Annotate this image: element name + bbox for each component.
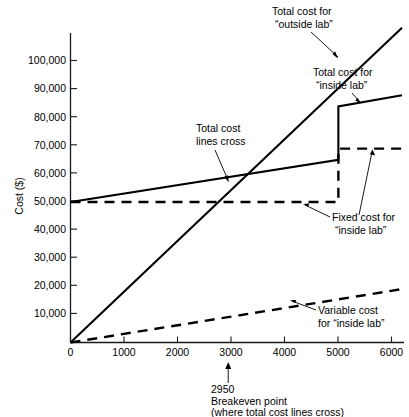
- y-tick-label-30000: 30,000: [34, 251, 66, 263]
- annotation-variable-cost: Variable cost for “inside lab”: [290, 300, 385, 329]
- y-tick-label-70000: 70,000: [34, 139, 66, 151]
- y-axis-title: Cost ($): [13, 177, 25, 214]
- breakeven-caption: 2950 Breakeven point (where total cost l…: [211, 383, 344, 417]
- x-tick-label-5000: 5000: [326, 346, 350, 358]
- y-axis: [71, 33, 78, 342]
- breakeven-value: 2950: [211, 383, 235, 395]
- y-tick-label-80000: 80,000: [34, 111, 66, 123]
- y-tick-label-90000: 90,000: [34, 82, 66, 94]
- x-tick-label-2000: 2000: [166, 346, 190, 358]
- y-tick-label-100000: 100,000: [28, 54, 66, 66]
- annotation-inside-lab-line2: “inside lab”: [316, 79, 368, 91]
- annotation-lines-cross-line2: lines cross: [196, 135, 246, 147]
- annotation-variable-cost-arrow-icon: [290, 300, 296, 303]
- annotation-outside-lab-line1: Total cost for: [272, 5, 332, 17]
- annotation-fixed-cost-line2: “inside lab”: [335, 224, 387, 236]
- x-tick-label-0: 0: [68, 346, 74, 358]
- annotation-outside-lab-line2: “outside lab”: [275, 18, 333, 30]
- annotation-inside-lab-line1: Total cost for: [313, 66, 373, 78]
- y-tick-label-40000: 40,000: [34, 223, 66, 235]
- annotation-fixed-cost-line1: Fixed cost for: [332, 211, 396, 223]
- annotation-fixed-cost-arrow-icon-up: [370, 150, 375, 156]
- y-tick-label-20000: 20,000: [34, 279, 66, 291]
- x-tick-label-6000: 6000: [380, 346, 404, 358]
- x-tick-labels: 0 1000 2000 3000 4000 5000 6000: [68, 346, 404, 358]
- annotation-lines-cross: Total cost lines cross: [196, 122, 246, 183]
- annotation-fixed-cost-arrow-icon-left: [303, 203, 309, 206]
- y-tick-labels: 100,000 90,000 80,000 70,000 60,000 50,0…: [28, 54, 66, 319]
- x-tick-label-4000: 4000: [273, 346, 297, 358]
- y-tick-label-50000: 50,000: [34, 195, 66, 207]
- breakeven-analysis-chart: 100,000 90,000 80,000 70,000 60,000 50,0…: [0, 0, 409, 417]
- annotation-lines-cross-arrow-icon: [224, 175, 228, 182]
- x-tick-label-1000: 1000: [112, 346, 136, 358]
- y-tick-label-60000: 60,000: [34, 167, 66, 179]
- x-axis: [71, 337, 405, 343]
- breakeven-caption-line2: (where total cost lines cross): [211, 406, 344, 417]
- annotation-variable-cost-line1: Variable cost: [318, 304, 378, 316]
- breakeven-arrow-icon: [225, 362, 231, 369]
- annotation-lines-cross-line1: Total cost: [196, 122, 240, 134]
- x-tick-label-3000: 3000: [219, 346, 243, 358]
- y-tick-label-10000: 10,000: [34, 307, 66, 319]
- annotation-outside-lab: Total cost for “outside lab”: [272, 5, 338, 59]
- annotation-variable-cost-line2: for “inside lab”: [318, 317, 385, 329]
- chart-figure: 100,000 90,000 80,000 70,000 60,000 50,0…: [0, 0, 409, 417]
- annotation-inside-lab: Total cost for “inside lab”: [313, 66, 373, 104]
- breakeven-marker: [225, 362, 231, 383]
